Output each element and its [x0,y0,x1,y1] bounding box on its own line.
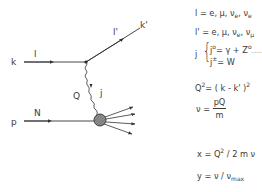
label-j: j [100,89,103,98]
equation-l: l = e, μ, νe, νe [195,9,252,20]
label-Q: Q [73,92,80,101]
label-k: k [11,58,16,67]
label-k-prime: k' [140,21,148,30]
equation-q2: Q2= ( k - k' )2 [195,80,250,93]
boson-wavy-line [85,62,99,118]
label-p: p [11,118,17,127]
equation-x: x = Q2 / 2 m ν [197,146,255,159]
equation-y: y = ν / νmax [197,172,244,183]
equation-nu: ν = pQm [196,98,226,120]
equation-j: j { jo= γ + Zo......... j±= W [195,41,262,67]
outgoing-hadrons [104,107,135,134]
label-l-prime: l' [113,28,118,37]
label-N: N [34,109,41,118]
label-l: l [34,50,37,59]
boson-arrow-icon [90,84,93,88]
